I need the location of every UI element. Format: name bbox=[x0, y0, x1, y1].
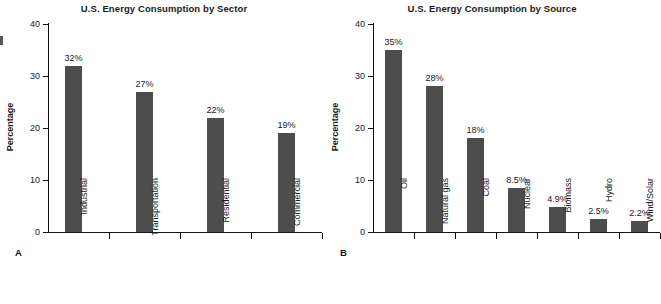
y-axis-title: Percentage bbox=[5, 87, 15, 167]
plot-area-a: 010203040Percentage32%Industrial27%Trans… bbox=[0, 0, 328, 304]
x-tick-mark bbox=[496, 233, 497, 239]
y-tick-label: 10 bbox=[337, 175, 365, 185]
bar-value-label: 18% bbox=[466, 125, 484, 135]
y-tick-mark bbox=[43, 232, 48, 233]
bar-value-label: 35% bbox=[384, 37, 402, 47]
panel-letter-b: B bbox=[340, 247, 347, 258]
x-tick-mark bbox=[455, 233, 456, 239]
x-category-label: Oil bbox=[399, 178, 409, 240]
y-axis-line bbox=[373, 23, 374, 233]
y-tick-mark bbox=[43, 76, 48, 77]
y-axis-title: Percentage bbox=[330, 87, 340, 167]
bar-value-label: 19% bbox=[277, 120, 295, 130]
y-tick-mark bbox=[368, 76, 373, 77]
x-category-label: Residential bbox=[221, 178, 231, 240]
x-tick-mark bbox=[578, 233, 579, 239]
chart-panel-a: U.S. Energy Consumption by Sector 010203… bbox=[0, 0, 328, 304]
x-tick-mark bbox=[109, 233, 110, 239]
x-axis-line bbox=[373, 232, 660, 233]
x-category-label: Natural gas bbox=[440, 178, 450, 240]
y-tick-mark bbox=[43, 180, 48, 181]
y-tick-label: 0 bbox=[337, 227, 365, 237]
x-category-label: Nuclear bbox=[522, 178, 532, 240]
y-tick-label: 20 bbox=[337, 123, 365, 133]
x-category-label: Commercial bbox=[292, 178, 302, 240]
x-category-label: Biomass bbox=[563, 178, 573, 240]
x-tick-mark bbox=[180, 233, 181, 239]
y-tick-label: 20 bbox=[12, 123, 40, 133]
plot-area-b: 010203040Percentage35%Oil28%Natural gas1… bbox=[328, 0, 656, 304]
y-axis-line bbox=[48, 23, 49, 233]
panel-letter-a: A bbox=[15, 247, 22, 258]
x-category-label: Hydro bbox=[604, 178, 614, 240]
x-category-label: Transportation bbox=[150, 178, 160, 240]
x-tick-mark bbox=[322, 233, 323, 239]
x-category-label: Industrial bbox=[79, 178, 89, 240]
y-tick-label: 30 bbox=[337, 71, 365, 81]
y-tick-mark bbox=[368, 232, 373, 233]
bar-value-label: 27% bbox=[135, 79, 153, 89]
x-tick-mark bbox=[414, 233, 415, 239]
y-tick-label: 10 bbox=[12, 175, 40, 185]
bar-value-label: 32% bbox=[64, 53, 82, 63]
y-tick-mark bbox=[43, 24, 48, 25]
y-tick-mark bbox=[368, 128, 373, 129]
x-tick-mark bbox=[537, 233, 538, 239]
x-axis-line bbox=[48, 232, 322, 233]
y-tick-mark bbox=[368, 24, 373, 25]
y-tick-label: 30 bbox=[12, 71, 40, 81]
chart-panel-b: U.S. Energy Consumption by Source 010203… bbox=[328, 0, 656, 304]
y-tick-label: 40 bbox=[12, 19, 40, 29]
x-category-label: Coal bbox=[481, 178, 491, 240]
x-tick-mark bbox=[619, 233, 620, 239]
bar-value-label: 28% bbox=[425, 73, 443, 83]
y-tick-mark bbox=[43, 128, 48, 129]
bar-value-label: 22% bbox=[206, 105, 224, 115]
y-tick-mark bbox=[368, 180, 373, 181]
y-tick-label: 0 bbox=[12, 227, 40, 237]
x-category-label: Wind/Solar bbox=[645, 178, 655, 240]
y-tick-label: 40 bbox=[337, 19, 365, 29]
page-edge-artifact bbox=[0, 36, 3, 45]
x-tick-mark bbox=[251, 233, 252, 239]
